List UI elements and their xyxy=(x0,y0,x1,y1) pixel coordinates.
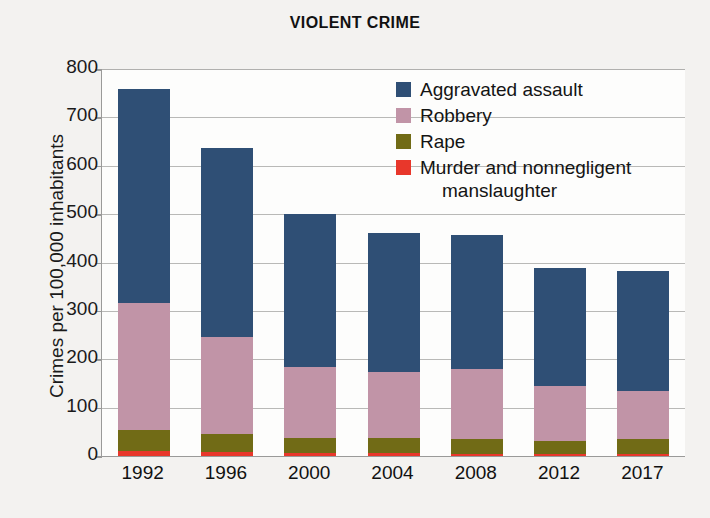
legend-label-line1: Murder and nonnegligent xyxy=(420,157,631,178)
y-tick-label: 300 xyxy=(38,298,98,320)
legend-item-robbery[interactable]: Robbery xyxy=(396,104,686,127)
bar-segment[interactable] xyxy=(118,451,170,456)
bar-segment[interactable] xyxy=(201,452,253,456)
x-tick-label: 2008 xyxy=(431,462,521,484)
x-tick-label: 1996 xyxy=(181,462,271,484)
legend-label: Aggravated assault xyxy=(420,78,583,101)
y-tick-label: 600 xyxy=(38,153,98,175)
legend-swatch-icon xyxy=(396,82,411,97)
legend-label-multiline: Murder and nonnegligentmanslaughter xyxy=(420,156,631,202)
bar-segment[interactable] xyxy=(534,386,586,441)
chart-page: VIOLENT CRIME Crimes per 100,000 inhabit… xyxy=(0,0,710,518)
y-tick-label: 100 xyxy=(38,395,98,417)
x-tick-label: 2000 xyxy=(264,462,354,484)
bar-stack[interactable] xyxy=(201,69,253,456)
chart-legend: Aggravated assault Robbery Rape Murder a… xyxy=(396,78,686,205)
y-tick-label: 200 xyxy=(38,346,98,368)
bar-segment[interactable] xyxy=(201,148,253,337)
legend-label: Rape xyxy=(420,130,465,153)
legend-item-rape[interactable]: Rape xyxy=(396,130,686,153)
x-tick-label: 2004 xyxy=(348,462,438,484)
bar-segment[interactable] xyxy=(201,434,253,452)
bar-segment[interactable] xyxy=(534,454,586,456)
legend-label-line2: manslaughter xyxy=(420,179,631,202)
bar-segment[interactable] xyxy=(451,454,503,456)
bar-segment[interactable] xyxy=(201,337,253,434)
bar-segment[interactable] xyxy=(284,438,336,453)
bar-segment[interactable] xyxy=(534,268,586,386)
chart-title: VIOLENT CRIME xyxy=(0,14,710,32)
legend-swatch-icon xyxy=(396,108,411,123)
bar-segment[interactable] xyxy=(118,430,170,451)
y-tick-label: 700 xyxy=(38,104,98,126)
bar-segment[interactable] xyxy=(451,235,503,369)
bar-stack[interactable] xyxy=(284,69,336,456)
bar-segment[interactable] xyxy=(284,214,336,368)
bar-segment[interactable] xyxy=(534,441,586,454)
legend-item-aggravated-assault[interactable]: Aggravated assault xyxy=(396,78,686,101)
bar-segment[interactable] xyxy=(118,89,170,302)
bar-segment[interactable] xyxy=(617,454,669,456)
x-tick-label: 2012 xyxy=(514,462,604,484)
y-tick-label: 400 xyxy=(38,250,98,272)
bar-segment[interactable] xyxy=(284,453,336,456)
bar-segment[interactable] xyxy=(451,369,503,439)
bar-segment[interactable] xyxy=(617,391,669,438)
bar-segment[interactable] xyxy=(617,271,669,391)
y-tick-label: 500 xyxy=(38,201,98,223)
x-tick-label: 1992 xyxy=(98,462,188,484)
bar-segment[interactable] xyxy=(118,303,170,431)
y-tick-label: 0 xyxy=(38,443,98,465)
x-tick-label: 2017 xyxy=(597,462,687,484)
bar-segment[interactable] xyxy=(284,367,336,437)
bar-segment[interactable] xyxy=(368,233,420,372)
bar-segment[interactable] xyxy=(451,439,503,454)
bar-stack[interactable] xyxy=(118,69,170,456)
legend-swatch-icon xyxy=(396,134,411,149)
bar-segment[interactable] xyxy=(368,372,420,438)
bar-segment[interactable] xyxy=(368,453,420,456)
bar-segment[interactable] xyxy=(617,439,669,454)
bar-segment[interactable] xyxy=(368,438,420,453)
legend-item-murder-and-nonnegligent-manslaughter[interactable]: Murder and nonnegligentmanslaughter xyxy=(396,156,686,202)
y-tick-label: 800 xyxy=(38,56,98,78)
legend-swatch-icon xyxy=(396,160,411,175)
legend-label: Robbery xyxy=(420,104,492,127)
